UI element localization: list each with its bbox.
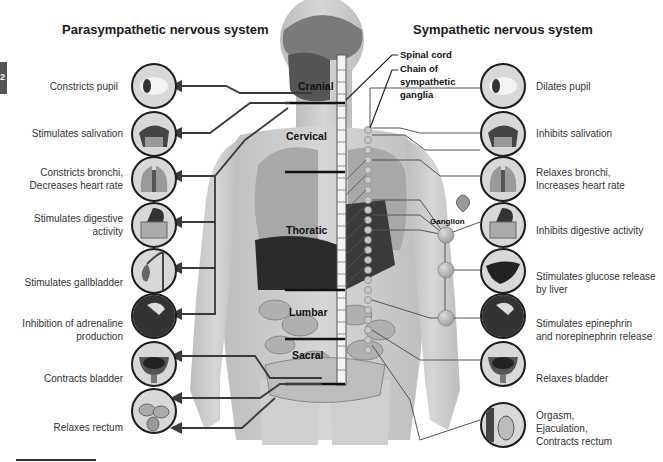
spinal-cord-label: Spinal cord bbox=[400, 49, 452, 61]
symp-label-liver: Stimulates glucose releaseby liver bbox=[536, 270, 656, 296]
para-label-digestive: Stimulates digestiveactivity bbox=[34, 212, 123, 238]
bladder-icon bbox=[131, 341, 177, 387]
symp-label-pupil: Dilates pupil bbox=[536, 80, 590, 93]
chain-label-line3: ganglia bbox=[400, 89, 433, 101]
salivary-gland-icon bbox=[131, 111, 177, 157]
ganglion-label: Ganglion bbox=[430, 216, 465, 228]
spinal-cord bbox=[337, 55, 346, 385]
para-label-gallbladder: Stimulates gallbladder bbox=[25, 276, 123, 289]
reproductive-organ-icon bbox=[480, 402, 526, 448]
para-label-adrenaline: Inhibition of adrenalineproduction bbox=[22, 317, 123, 343]
eye-icon bbox=[480, 63, 526, 109]
adrenal-gland-icon bbox=[480, 293, 526, 339]
region-cranial: Cranial bbox=[298, 80, 334, 92]
bladder-icon bbox=[480, 341, 526, 387]
symp-label-bronchi: Relaxes bronchi,Increases heart rate bbox=[536, 166, 625, 192]
digestive-tract-icon bbox=[131, 202, 177, 248]
chain-label-line1: Chain of bbox=[400, 63, 438, 75]
symp-label-salivation: Inhibits salivation bbox=[536, 127, 612, 140]
region-sacral: Sacral bbox=[292, 349, 324, 361]
chain-label-line2: sympathetic bbox=[400, 76, 455, 88]
lungs-heart-icon bbox=[480, 156, 526, 202]
gallbladder-icon bbox=[131, 248, 177, 294]
symp-label-reproductive: Orgasm,Ejaculation,Contracts rectum bbox=[536, 409, 612, 448]
para-label-salivation: Stimulates salivation bbox=[32, 127, 123, 140]
region-lumbar: Lumbar bbox=[289, 306, 328, 318]
region-cervical: Cervical bbox=[286, 130, 327, 142]
region-thoracic: Thoratic bbox=[286, 224, 327, 236]
symp-label-epinephrin: Stimulates epinephrinand norepinephrin r… bbox=[536, 317, 652, 343]
para-label-pupil: Constricts pupil bbox=[50, 80, 118, 93]
symp-label-digestive: Inhibits digestive activity bbox=[536, 224, 643, 237]
para-label-rectum: Relaxes rectum bbox=[54, 421, 123, 434]
salivary-gland-icon bbox=[480, 111, 526, 157]
para-label-bladder: Contracts bladder bbox=[44, 372, 123, 385]
footer-rule bbox=[16, 459, 96, 461]
rectum-icon bbox=[131, 388, 177, 434]
liver-icon bbox=[480, 248, 526, 294]
para-label-bronchi: Constricts bronchi,Decreases heart rate bbox=[30, 166, 123, 192]
eye-icon bbox=[131, 63, 177, 109]
lungs-heart-icon bbox=[131, 156, 177, 202]
heart-icon bbox=[456, 195, 469, 212]
adrenal-gland-icon bbox=[131, 293, 177, 339]
digestive-tract-icon bbox=[480, 202, 526, 248]
symp-label-bladder: Relaxes bladder bbox=[536, 372, 608, 385]
